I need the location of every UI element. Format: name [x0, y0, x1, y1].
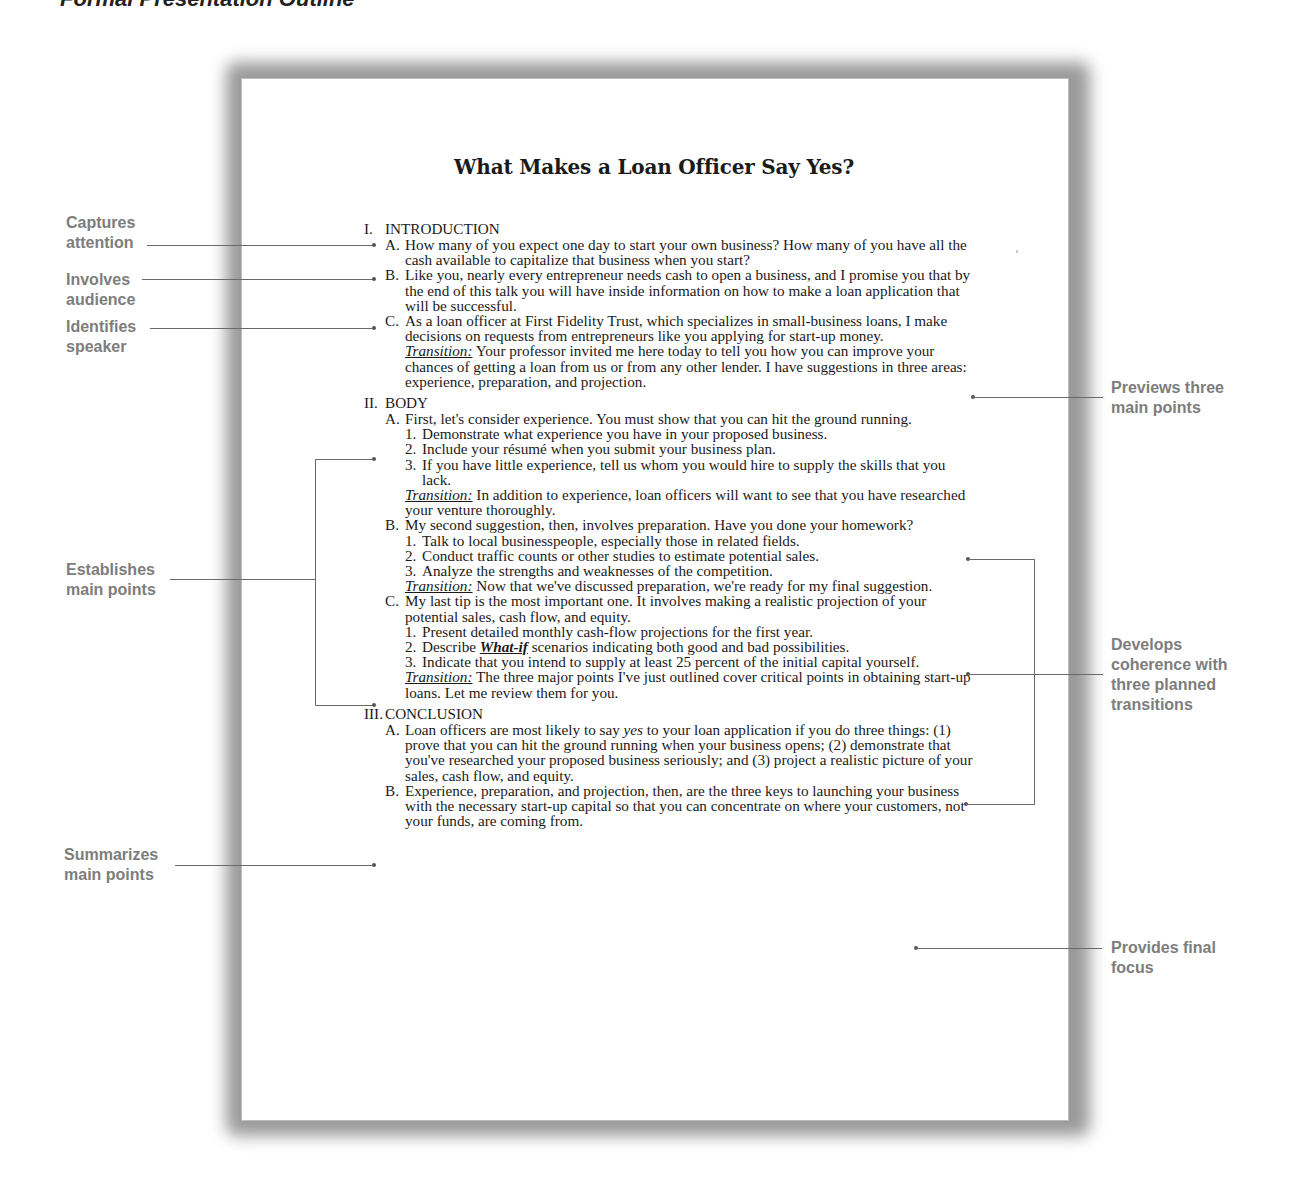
leader-line	[973, 397, 1103, 398]
leader-line	[170, 579, 316, 580]
section-numeral: II.	[364, 395, 385, 411]
item-text: Experience, preparation, and projection,…	[405, 783, 974, 829]
transition-body: In addition to experience, loan officers…	[405, 486, 965, 518]
annotation-involves-audience: Involves audience	[66, 270, 135, 310]
section-conclusion: III. CONCLUSION A. Loan officers are mos…	[364, 706, 974, 828]
transition-body: Your professor invited me here today to …	[405, 342, 967, 389]
bracket-arm	[968, 559, 1035, 560]
subpoint-text: Include your résumé when you submit your…	[422, 441, 974, 456]
subpoint: 1. Present detailed monthly cash-flow pr…	[405, 624, 974, 639]
outline-item: A. Loan officers are most likely to say …	[364, 722, 974, 783]
outline-item: A. First, let's consider experience. You…	[364, 411, 974, 517]
item-letter: C.	[364, 313, 405, 389]
section-body: II. BODY A. First, let's consider experi…	[364, 395, 974, 700]
outline-item: A. How many of you expect one day to sta…	[364, 237, 974, 267]
leader-line	[142, 279, 373, 280]
section-numeral: III.	[364, 706, 385, 722]
item-letter: B.	[364, 267, 405, 313]
subpoint: 1. Talk to local businesspeople, especia…	[405, 533, 974, 548]
section-numeral: I.	[364, 221, 385, 237]
subpoint-text: Demonstrate what experience you have in …	[422, 426, 974, 441]
item-text: How many of you expect one day to start …	[405, 237, 974, 267]
item-letter: C.	[364, 593, 405, 699]
subpoint-text: Present detailed monthly cash-flow proje…	[422, 624, 974, 639]
item-text: My last tip is the most important one. I…	[405, 593, 974, 623]
subpoint: 3. Indicate that you intend to supply at…	[405, 654, 974, 669]
leader-line	[916, 948, 1102, 949]
subpoint: 3. If you have little experience, tell u…	[405, 457, 974, 487]
leader-dot	[372, 457, 376, 461]
item-text: First, let's consider experience. You mu…	[405, 411, 974, 426]
bracket-line	[1034, 559, 1035, 804]
annotation-previews-three-main-points: Previews three main points	[1111, 378, 1224, 418]
subpoint-text: Talk to local businesspeople, especially…	[422, 533, 974, 548]
outline-body: I. INTRODUCTION A. How many of you expec…	[364, 221, 974, 828]
subpoint: 1. Demonstrate what experience you have …	[405, 426, 974, 441]
outline-item: B. My second suggestion, then, involves …	[364, 517, 974, 593]
subpoint-number: 3.	[405, 563, 422, 578]
page-speck	[1016, 250, 1018, 253]
annotation-develops-coherence: Develops coherence with three planned tr…	[1111, 635, 1227, 715]
subpoint-number: 3.	[405, 457, 422, 487]
subpoint: 2. Include your résumé when you submit y…	[405, 441, 974, 456]
leader-dot	[372, 277, 376, 281]
annotation-identifies-speaker: Identifies speaker	[66, 317, 136, 357]
leader-dot	[372, 243, 376, 247]
section-title: INTRODUCTION	[385, 221, 974, 237]
leader-line	[150, 328, 373, 329]
outline-item: C. As a loan officer at First Fidelity T…	[364, 313, 974, 389]
section-title: CONCLUSION	[385, 706, 974, 722]
bracket-arm	[315, 705, 373, 706]
annotation-provides-final-focus: Provides final focus	[1111, 938, 1216, 978]
item-letter: A.	[364, 237, 405, 267]
annotation-summarizes-main-points: Summarizes main points	[64, 845, 158, 885]
subpoint-number: 2.	[405, 548, 422, 563]
transition-text: Transition: Now that we've discussed pre…	[405, 578, 974, 593]
leader-dot	[372, 326, 376, 330]
item-letter: B.	[364, 517, 405, 593]
subpoint-text: If you have little experience, tell us w…	[422, 457, 974, 487]
annotation-captures-attention: Captures attention	[66, 213, 135, 253]
figure-heading: Formal Presentation Outline	[60, 0, 355, 12]
subpoint-number: 2.	[405, 441, 422, 456]
section-introduction: I. INTRODUCTION A. How many of you expec…	[364, 221, 974, 389]
item-letter: A.	[364, 411, 405, 517]
leader-line	[175, 865, 373, 866]
document-title: What Makes a Loan Officer Say Yes?	[241, 155, 1067, 179]
item-text: As a loan officer at First Fidelity Trus…	[405, 313, 974, 343]
outline-item: B. Experience, preparation, and projecti…	[364, 783, 974, 829]
subpoint: 2. Describe What-if scenarios indicating…	[405, 639, 974, 654]
subpoint-text: Indicate that you intend to supply at le…	[422, 654, 974, 669]
subpoint-text: Analyze the strengths and weaknesses of …	[422, 563, 974, 578]
bracket-arm	[966, 804, 1035, 805]
subpoint-number: 3.	[405, 654, 422, 669]
item-text: My second suggestion, then, involves pre…	[405, 517, 974, 532]
subpoint-number: 1.	[405, 533, 422, 548]
item-letter: B.	[364, 783, 405, 829]
section-title: BODY	[385, 395, 974, 411]
bracket-line	[315, 459, 316, 705]
leader-line	[147, 245, 373, 246]
subpoint: 3. Analyze the strengths and weaknesses …	[405, 563, 974, 578]
subpoint-text: Describe What-if scenarios indicating bo…	[422, 639, 974, 654]
subpoint-text: Conduct traffic counts or other studies …	[422, 548, 974, 563]
transition-body: The three major points I've just outline…	[405, 668, 971, 700]
transition-text: Transition: The three major points I've …	[405, 669, 974, 699]
subpoint-number: 1.	[405, 624, 422, 639]
outline-item: C. My last tip is the most important one…	[364, 593, 974, 699]
outline-item: B. Like you, nearly every entrepreneur n…	[364, 267, 974, 313]
leader-dot	[372, 863, 376, 867]
subpoint: 2. Conduct traffic counts or other studi…	[405, 548, 974, 563]
item-text: Like you, nearly every entrepreneur need…	[405, 267, 974, 313]
bracket-arm	[315, 459, 373, 460]
leader-dot	[372, 703, 376, 707]
item-text: Loan officers are most likely to say yes…	[405, 722, 974, 783]
annotation-establishes-main-points: Establishes main points	[66, 560, 156, 600]
item-letter: A.	[364, 722, 405, 783]
transition-text: Transition: In addition to experience, l…	[405, 487, 974, 517]
subpoint-number: 1.	[405, 426, 422, 441]
leader-line	[968, 674, 1103, 675]
subpoint-number: 2.	[405, 639, 422, 654]
transition-text: Transition: Your professor invited me he…	[405, 343, 974, 389]
